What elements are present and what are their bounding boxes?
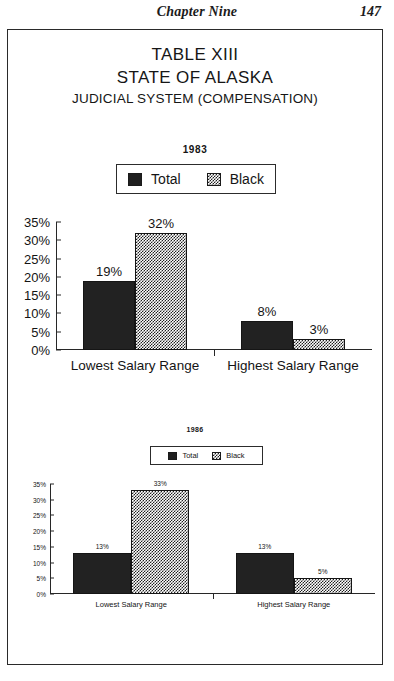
y-axis-tick-label: 15%	[24, 288, 56, 303]
legend-label-black: Black	[230, 171, 264, 187]
chart-1983: 1983 Total Black 0%5%10%15%20%25%30%35%1…	[8, 126, 382, 386]
chart-1986-legend: Total Black	[150, 446, 263, 465]
bar-total-group-2	[236, 553, 294, 594]
y-axis-tick-label: 25%	[33, 512, 50, 519]
y-axis-tick-mark	[50, 562, 54, 563]
table-heading-line-2: STATE OF ALASKA	[8, 68, 382, 88]
bar-black-group-2	[294, 578, 352, 594]
y-axis-tick-label: 35%	[24, 215, 56, 230]
bar-total-group-1	[83, 281, 135, 350]
y-axis-tick-mark	[50, 578, 54, 579]
legend-label-black: Black	[226, 451, 244, 460]
bar-black-group-1	[135, 233, 187, 350]
y-axis-tick-mark	[56, 222, 61, 223]
y-axis-tick-label: 20%	[24, 269, 56, 284]
bar-value-label: 13%	[73, 543, 131, 550]
checkered-pattern-swatch-icon	[207, 173, 221, 186]
bar-value-label: 32%	[135, 216, 187, 231]
category-divider	[213, 594, 214, 599]
y-axis-tick-label: 15%	[33, 543, 50, 550]
legend-entry-black: Black	[212, 451, 244, 460]
checkered-pattern-swatch-icon	[212, 452, 221, 460]
chapter-title: Chapter Nine	[0, 4, 394, 20]
y-axis-tick-mark	[56, 295, 61, 296]
chart-1986-plot: 0%5%10%15%20%25%30%35%13%33%Lowest Salar…	[50, 484, 375, 594]
y-axis-tick-label: 30%	[33, 496, 50, 503]
y-axis-tick-label: 0%	[31, 343, 56, 358]
bar-value-label: 13%	[236, 543, 294, 550]
category-label: Highest Salary Range	[214, 358, 372, 373]
y-axis-tick-label: 5%	[31, 324, 56, 339]
bar-black-group-2	[293, 339, 345, 350]
page-number: 147	[360, 4, 381, 20]
y-axis-tick-mark	[56, 350, 61, 351]
solid-black-swatch-icon	[168, 452, 177, 460]
y-axis-tick-mark	[56, 276, 61, 277]
bar-value-label: 3%	[293, 322, 345, 337]
table-heading-line-3: JUDICIAL SYSTEM (COMPENSATION)	[8, 91, 382, 106]
y-axis-tick-label: 30%	[24, 233, 56, 248]
y-axis-tick-mark	[50, 484, 54, 485]
y-axis-tick-mark	[56, 240, 61, 241]
solid-black-swatch-icon	[128, 173, 142, 186]
legend-label-total: Total	[151, 171, 181, 187]
y-axis-tick-label: 10%	[24, 306, 56, 321]
bar-value-label: 5%	[294, 568, 352, 575]
chart-1986: 1986 Total Black 0%5%10%15%20%25%30%35%1…	[8, 396, 382, 641]
y-axis-tick-mark	[50, 515, 54, 516]
legend-entry-black: Black	[207, 171, 264, 187]
chart-1983-legend: Total Black	[116, 164, 276, 194]
category-label: Highest Salary Range	[213, 600, 376, 609]
legend-entry-total: Total	[168, 451, 198, 460]
y-axis-tick-mark	[56, 331, 61, 332]
bar-value-label: 8%	[241, 304, 293, 319]
chart-1983-plot: 0%5%10%15%20%25%30%35%19%32%Lowest Salar…	[56, 222, 372, 350]
y-axis-tick-mark	[50, 594, 54, 595]
bar-total-group-2	[241, 321, 293, 350]
chart-1983-year: 1983	[8, 144, 382, 155]
category-divider	[214, 350, 215, 356]
bar-value-label: 19%	[83, 264, 135, 279]
running-head: Chapter Nine 147	[0, 4, 394, 24]
y-axis-tick-mark	[56, 313, 61, 314]
y-axis-tick-mark	[50, 546, 54, 547]
category-label: Lowest Salary Range	[56, 358, 214, 373]
y-axis-tick-mark	[50, 531, 54, 532]
table-frame: TABLE XIII STATE OF ALASKA JUDICIAL SYST…	[7, 29, 383, 665]
y-axis-tick-label: 25%	[24, 251, 56, 266]
y-axis-tick-label: 5%	[37, 575, 50, 582]
chart-1986-year: 1986	[8, 426, 382, 433]
y-axis-tick-mark	[50, 499, 54, 500]
category-label: Lowest Salary Range	[50, 600, 213, 609]
y-axis-tick-label: 20%	[33, 528, 50, 535]
y-axis-tick-label: 0%	[37, 591, 50, 598]
table-heading-line-1: TABLE XIII	[8, 45, 382, 65]
y-axis-tick-label: 10%	[33, 559, 50, 566]
bar-black-group-1	[131, 490, 189, 594]
y-axis-tick-mark	[56, 258, 61, 259]
legend-label-total: Total	[182, 451, 198, 460]
bar-total-group-1	[73, 553, 131, 594]
bar-value-label: 33%	[131, 480, 189, 487]
y-axis-tick-label: 35%	[33, 481, 50, 488]
legend-entry-total: Total	[128, 171, 181, 187]
